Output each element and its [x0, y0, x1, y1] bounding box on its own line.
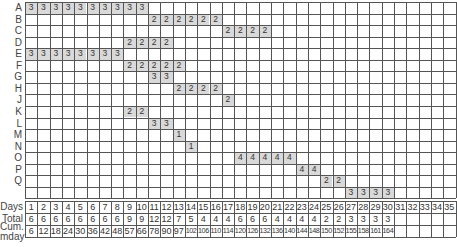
summary-cell: 155: [345, 225, 357, 238]
grid-line-h: [25, 152, 456, 153]
activity-cell: 3: [87, 48, 99, 60]
grid-line-h: [25, 175, 456, 176]
activity-cell: 3: [87, 2, 99, 14]
grid-line-h: [25, 25, 456, 26]
activity-cell: 4: [234, 152, 246, 164]
row-label-P: P: [0, 164, 22, 176]
summary-cell: 5: [185, 213, 197, 225]
grid-line-v: [222, 2, 223, 198]
summary-line-v: [406, 201, 407, 238]
summary-cell: 3: [382, 213, 394, 225]
summary-line-v: [210, 201, 211, 238]
summary-cell: 102: [185, 225, 197, 238]
grid-line-h: [25, 118, 456, 119]
activity-cell: 2: [173, 83, 185, 95]
grid-line-h: [25, 14, 456, 15]
summary-cell: 33: [419, 201, 431, 213]
summary-cell: 9: [123, 201, 135, 213]
summary-cell: [406, 213, 418, 225]
summary-cell: 35: [443, 201, 455, 213]
grid-line-h: [25, 187, 456, 188]
activity-cell: 3: [25, 48, 37, 60]
summary-cell: 48: [111, 225, 123, 238]
activity-cell: 3: [357, 187, 369, 199]
summary-cell: 2: [320, 213, 332, 225]
summary-cell: 11: [148, 201, 160, 213]
summary-cell: 120: [234, 225, 246, 238]
summary-cell: 16: [210, 201, 222, 213]
summary-line-v: [369, 201, 370, 238]
grid-line-h: [25, 37, 456, 38]
activity-cell: 2: [123, 60, 135, 72]
grid-line-v: [197, 2, 198, 198]
row-label-A: A: [0, 2, 22, 14]
summary-cell: 6: [25, 213, 37, 225]
summary-cell: 6: [111, 213, 123, 225]
grid-line-h: [25, 141, 456, 142]
summary-cell: 150: [320, 225, 332, 238]
summary-cell: 126: [246, 225, 258, 238]
summary-cell: 17: [222, 201, 234, 213]
activity-cell: 3: [345, 187, 357, 199]
activity-cell: 2: [160, 37, 172, 49]
grid-line-h: [25, 48, 456, 49]
summary-cell: 36: [87, 225, 99, 238]
grid-line-h: [25, 83, 456, 84]
row-label-E: E: [0, 48, 22, 60]
summary-line-v: [50, 201, 51, 238]
activity-cell: 3: [74, 48, 86, 60]
grid-line-v: [456, 2, 457, 198]
activity-cell: 2: [259, 25, 271, 37]
grid-line-h: [25, 2, 456, 3]
summary-cell: 78: [148, 225, 160, 238]
grid-line-v: [246, 2, 247, 198]
activity-cell: 2: [148, 14, 160, 26]
activity-cell: 3: [74, 2, 86, 14]
summary-cell: 9: [123, 213, 135, 225]
grid-line-v: [173, 2, 174, 198]
summary-cell: 6: [234, 213, 246, 225]
row-label-N: N: [0, 141, 22, 153]
row-label-J: J: [0, 94, 22, 106]
grid-line-v: [443, 2, 444, 198]
activity-cell: 3: [160, 118, 172, 130]
grid-line-v: [369, 2, 370, 198]
summary-cell: [406, 225, 418, 238]
summary-cell: 8: [111, 201, 123, 213]
row-label-K: K: [0, 106, 22, 118]
summary-cell: 4: [197, 213, 209, 225]
summary-cell: 12: [160, 201, 172, 213]
activity-cell: 3: [99, 48, 111, 60]
activity-cell: 2: [210, 83, 222, 95]
grid-line-h: [25, 129, 456, 130]
activity-cell: 4: [283, 152, 295, 164]
summary-line-v: [148, 201, 149, 238]
summary-cell: [431, 213, 443, 225]
summary-cell: 6: [25, 225, 37, 238]
row-label-L: L: [0, 118, 22, 130]
summary-line-v: [419, 201, 420, 238]
grid-line-v: [50, 2, 51, 198]
grid-line-v: [431, 2, 432, 198]
grid-line-v: [99, 2, 100, 198]
summary-cell: 110: [210, 225, 222, 238]
grid-line-v: [148, 2, 149, 198]
activity-cell: 3: [123, 2, 135, 14]
summary-cell: 28: [357, 201, 369, 213]
summary-cell: 22: [283, 201, 295, 213]
summary-line-v: [357, 201, 358, 238]
summary-cell: 164: [382, 225, 394, 238]
summary-cell: 34: [431, 201, 443, 213]
row-label-blank: [0, 187, 22, 199]
summary-line-v: [259, 201, 260, 238]
grid-line-h: [25, 71, 456, 72]
activity-cell: 2: [160, 60, 172, 72]
summary-cell: 12: [160, 213, 172, 225]
summary-cell: [419, 213, 431, 225]
grid-line-v: [333, 2, 334, 198]
activity-cell: 3: [50, 48, 62, 60]
summary-cell: 3: [357, 213, 369, 225]
summary-line-v: [222, 201, 223, 238]
summary-line-v: [333, 201, 334, 238]
grid-line-h: [25, 106, 456, 107]
